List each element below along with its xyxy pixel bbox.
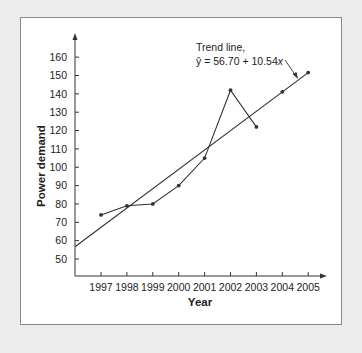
y-tick-label: 110 bbox=[50, 143, 67, 155]
data-point bbox=[151, 202, 155, 206]
line-chart: 5060708090100110120130140150160 19971998… bbox=[0, 0, 362, 353]
x-axis-arrow-icon bbox=[320, 274, 327, 279]
x-tick-label: 2001 bbox=[193, 281, 217, 293]
x-axis-ticks: 199719981999200020012002200320042005 bbox=[89, 272, 320, 293]
data-series bbox=[99, 71, 310, 217]
x-tick-label: 2004 bbox=[271, 281, 295, 293]
y-tick-label: 140 bbox=[49, 88, 67, 100]
arrow-head-icon bbox=[293, 72, 299, 79]
annotation-line1: Trend line, bbox=[196, 41, 245, 53]
trend-line bbox=[75, 73, 308, 247]
y-tick-label: 100 bbox=[49, 161, 67, 173]
x-tick-label: 1997 bbox=[89, 281, 113, 293]
x-tick-label: 1998 bbox=[115, 281, 139, 293]
x-tick-label: 2002 bbox=[219, 281, 243, 293]
annotation-equation: ŷ = 56.70 + 10.54x bbox=[196, 55, 284, 67]
x-tick-label: 1999 bbox=[141, 281, 165, 293]
y-axis-arrow-icon bbox=[73, 33, 78, 40]
data-point bbox=[125, 204, 129, 208]
x-tick-label: 2000 bbox=[167, 281, 191, 293]
data-point bbox=[229, 88, 233, 92]
y-tick-label: 120 bbox=[49, 124, 67, 136]
axes bbox=[73, 33, 328, 279]
actual-demand-line bbox=[101, 90, 256, 215]
trend-annotation: Trend line, ŷ = 56.70 + 10.54x bbox=[196, 41, 298, 79]
projection-point bbox=[306, 71, 310, 75]
x-tick-label: 2005 bbox=[297, 281, 321, 293]
data-point bbox=[177, 184, 181, 188]
y-tick-label: 60 bbox=[55, 234, 67, 246]
y-tick-label: 80 bbox=[55, 198, 67, 210]
data-point bbox=[99, 213, 103, 217]
y-tick-label: 70 bbox=[55, 216, 67, 228]
y-tick-label: 160 bbox=[49, 51, 67, 63]
x-tick-label: 2003 bbox=[245, 281, 269, 293]
y-axis-title: Power demand bbox=[35, 125, 47, 207]
y-tick-label: 50 bbox=[55, 253, 67, 265]
x-axis-title: Year bbox=[188, 296, 213, 308]
data-point bbox=[255, 125, 259, 129]
y-tick-label: 90 bbox=[55, 179, 67, 191]
y-tick-label: 130 bbox=[49, 106, 67, 118]
projection-point bbox=[280, 90, 284, 94]
y-tick-label: 150 bbox=[49, 69, 67, 81]
data-point bbox=[203, 156, 207, 160]
